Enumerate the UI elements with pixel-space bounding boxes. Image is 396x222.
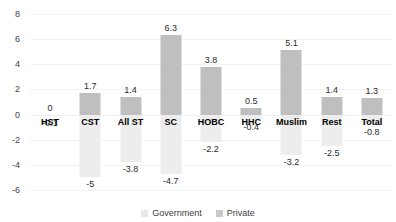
category-label: Muslim <box>276 117 307 127</box>
legend-label-government: Government <box>152 208 202 218</box>
legend-label-private: Private <box>227 208 255 218</box>
bar-value-label-government: 6.3 <box>165 23 178 33</box>
bar-government[interactable] <box>281 50 302 114</box>
bar-value-label-government: 1.4 <box>124 85 137 95</box>
y-axis-tick-label: -2 <box>0 135 20 145</box>
bar-value-label-government: 1.4 <box>325 85 338 95</box>
category-label: All ST <box>118 117 144 127</box>
bar-group: 0-0.1HST <box>30 14 70 190</box>
bar-value-label-government: 3.8 <box>205 55 218 65</box>
gridline <box>30 190 392 191</box>
bar-group: 1.3-0.8Total <box>352 14 392 190</box>
bar-group: 1.4-2.5Rest <box>312 14 352 190</box>
bar-value-label-government: 1.7 <box>84 81 97 91</box>
bar-group: 3.8-2.2HOBC <box>191 14 231 190</box>
category-label: HHC <box>241 117 261 127</box>
y-axis-tick-label: 8 <box>0 9 20 19</box>
plot-area: 86420-2-4-60-0.1HST1.7-5CST1.4-3.8All ST… <box>30 14 392 190</box>
category-label: CST <box>81 117 99 127</box>
bar-value-label-government: 5.1 <box>285 38 298 48</box>
y-axis-tick-label: 6 <box>0 34 20 44</box>
bar-value-label-private: -4.7 <box>163 176 179 186</box>
bar-group: 5.1-3.2Muslim <box>271 14 311 190</box>
category-label: Rest <box>322 117 342 127</box>
bar-government[interactable] <box>361 98 382 114</box>
bar-government[interactable] <box>321 97 342 115</box>
bar-value-label-private: -0.8 <box>364 127 380 137</box>
legend-swatch-private <box>216 210 223 217</box>
bar-value-label-government: 1.3 <box>366 86 379 96</box>
y-axis-tick-label: 4 <box>0 59 20 69</box>
bar-value-label-private: -2.2 <box>203 144 219 154</box>
category-label: Total <box>361 117 382 127</box>
bar-value-label-private: -2.5 <box>324 148 340 158</box>
y-axis-tick-label: -6 <box>0 185 20 195</box>
bar-value-label-government: 0.5 <box>245 96 258 106</box>
bar-group: 6.3-4.7SC <box>151 14 191 190</box>
bar-value-label-government: 0 <box>48 103 53 113</box>
bar-group: 1.4-3.8All ST <box>110 14 150 190</box>
bar-group: 0.5-0.4HHC <box>231 14 271 190</box>
bar-government[interactable] <box>120 97 141 115</box>
legend-swatch-government <box>141 210 148 217</box>
y-axis-tick-label: -4 <box>0 160 20 170</box>
bar-value-label-private: -3.8 <box>123 164 139 174</box>
bar-value-label-private: -5 <box>86 179 94 189</box>
bar-group: 1.7-5CST <box>70 14 110 190</box>
legend-item-government[interactable]: Government <box>141 208 202 218</box>
chart-legend: Government Private <box>0 208 396 218</box>
category-label: HST <box>41 117 59 127</box>
legend-item-private[interactable]: Private <box>216 208 255 218</box>
bar-value-label-private: -3.2 <box>284 157 300 167</box>
category-label: HOBC <box>198 117 225 127</box>
y-axis-tick-label: 0 <box>0 110 20 120</box>
bar-government[interactable] <box>80 93 101 114</box>
bar-government[interactable] <box>200 67 221 115</box>
y-axis-tick-label: 2 <box>0 84 20 94</box>
bar-government[interactable] <box>160 35 181 114</box>
chart-container: 86420-2-4-60-0.1HST1.7-5CST1.4-3.8All ST… <box>0 0 396 222</box>
category-label: SC <box>165 117 178 127</box>
